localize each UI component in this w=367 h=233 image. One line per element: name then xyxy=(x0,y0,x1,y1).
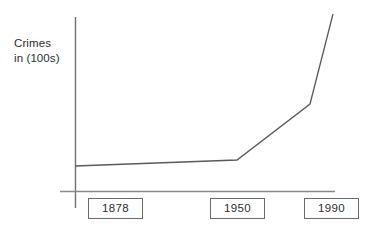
crimes-data-line xyxy=(75,14,333,166)
y-axis-label-line-2: in (100s) xyxy=(14,51,60,66)
y-axis-label-line-1: Crimes xyxy=(14,36,60,51)
x-tick-label-1878: 1878 xyxy=(88,198,143,219)
y-axis-label: Crimes in (100s) xyxy=(14,36,60,66)
crimes-line-chart: Crimes in (100s) 1878 1950 1990 xyxy=(0,0,367,233)
x-tick-label-1990: 1990 xyxy=(304,198,359,219)
x-tick-label-1950: 1950 xyxy=(210,198,265,219)
